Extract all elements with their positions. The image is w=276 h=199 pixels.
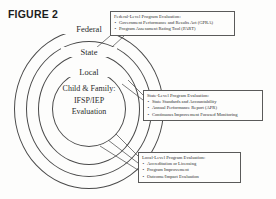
ring-label-local: Local bbox=[63, 67, 115, 77]
core-label-line2: IFSP/IEP bbox=[52, 95, 126, 107]
callout-local-list: Accreditation or Licensing Program Impro… bbox=[142, 161, 237, 180]
page-title: FIGURE 2 bbox=[8, 8, 58, 20]
core-label-line3: Evaluation bbox=[52, 106, 126, 118]
callout-local: Local-Level Program Evaluation: Accredit… bbox=[138, 152, 241, 183]
ring-label-state: State bbox=[61, 47, 117, 57]
list-item: Continuous Improvement Focused Monitorin… bbox=[147, 112, 259, 118]
figure-container: FIGURE 2 Federal State Local Child & Fam… bbox=[0, 0, 276, 199]
callout-federal: Federal-Level Program Evaluation: Govern… bbox=[110, 11, 235, 36]
callout-state: State-Level Program Evaluation: State St… bbox=[143, 90, 263, 121]
page-edge-artifact bbox=[261, 6, 275, 192]
core-label-line1: Child & Family: bbox=[52, 83, 126, 95]
callout-federal-list: Government Performance and Results Act (… bbox=[114, 20, 231, 32]
list-item: Outcome/Impact Evaluation bbox=[142, 174, 237, 180]
list-item: Program Assessment Rating Tool (PART) bbox=[114, 26, 231, 32]
callout-state-list: State Standards and Accountability Annua… bbox=[147, 99, 259, 118]
core-label-group: Child & Family: IFSP/IEP Evaluation bbox=[52, 83, 126, 118]
